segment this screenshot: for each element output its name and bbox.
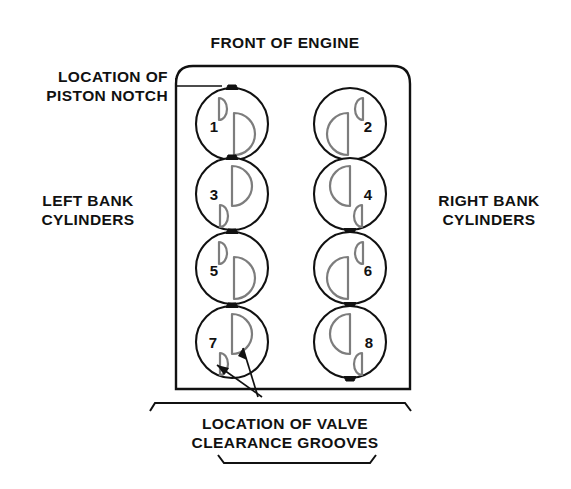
- cylinder-8-piston-notch: [344, 377, 356, 382]
- cylinder-3-small-valve-groove: [220, 205, 228, 227]
- engine-diagram-svg: FRONT OF ENGINE LOCATION OF PISTON NOTCH…: [0, 0, 571, 489]
- cylinder-2-number: 2: [364, 118, 372, 135]
- cylinder-8-small-valve-groove: [354, 353, 362, 375]
- cylinder-7-piston-notch: [226, 303, 238, 308]
- valve-clearance-label-line1: LOCATION OF VALVE: [202, 415, 368, 432]
- cylinder-7-number: 7: [209, 334, 217, 351]
- cylinder-8-number: 8: [365, 334, 373, 351]
- front-of-engine-label: FRONT OF ENGINE: [211, 34, 360, 51]
- cylinder-5-number: 5: [210, 262, 218, 279]
- cylinder-3-piston-notch: [226, 155, 238, 160]
- cylinder-6-bore: [314, 232, 386, 304]
- cylinder-1-number: 1: [210, 118, 218, 135]
- left-bank-label-line1: LEFT BANK: [42, 192, 134, 209]
- cylinder-3-number: 3: [210, 186, 218, 203]
- valve-groove-bracket-bottom: [218, 455, 376, 463]
- cylinder-4-number: 4: [364, 186, 373, 203]
- valve-clearance-label-line2: CLEARANCE GROOVES: [192, 434, 379, 451]
- cylinder-1-bore: [196, 88, 268, 160]
- right-bank-label-line2: CYLINDERS: [442, 211, 535, 228]
- cylinder-6-number: 6: [364, 262, 372, 279]
- left-bank-label-line2: CYLINDERS: [41, 211, 134, 228]
- cylinder-2-bore: [314, 88, 386, 160]
- cylinder-5-bore: [196, 232, 268, 304]
- cylinder-1-small-valve-groove: [219, 98, 227, 120]
- cylinder-1-piston-notch: [226, 85, 238, 90]
- cylinder-4-small-valve-groove: [354, 205, 362, 227]
- right-bank-label-line1: RIGHT BANK: [438, 192, 540, 209]
- cylinder-5-piston-notch: [226, 229, 238, 234]
- cylinder-2-small-valve-groove: [355, 98, 363, 120]
- valve-groove-bracket-top: [150, 403, 411, 411]
- engine-cylinder-diagram: FRONT OF ENGINE LOCATION OF PISTON NOTCH…: [0, 0, 571, 489]
- piston-notch-label-line1: LOCATION OF: [58, 68, 168, 85]
- cylinder-5-small-valve-groove: [219, 242, 227, 264]
- piston-notch-label-line2: PISTON NOTCH: [46, 87, 168, 104]
- cylinder-6-small-valve-groove: [355, 242, 363, 264]
